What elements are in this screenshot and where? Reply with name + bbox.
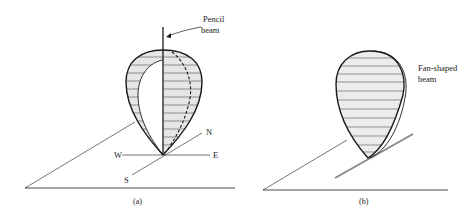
compass-north-label: N [206,127,212,137]
pencil-beam-label-line2: beam [201,25,219,35]
compass-south-label: S [124,175,129,185]
panel-b-caption: (b) [359,197,368,207]
radar-beam-diagram [0,0,476,217]
compass-west-label: W [114,150,122,160]
compass-east-label: E [213,150,218,160]
fan-beam-label-line1: Fan-shaped [418,63,457,73]
panel-a-caption: (a) [133,197,142,207]
right-lobe [160,50,210,155]
pencil-beam-label-line1: Pencil [203,14,224,24]
panel-a-pencil-beam [25,27,235,188]
perspective-line-b [263,140,347,190]
fan-beam-label-line2: beam [418,74,436,84]
pencil-beam-pointer-arrow [168,27,201,36]
